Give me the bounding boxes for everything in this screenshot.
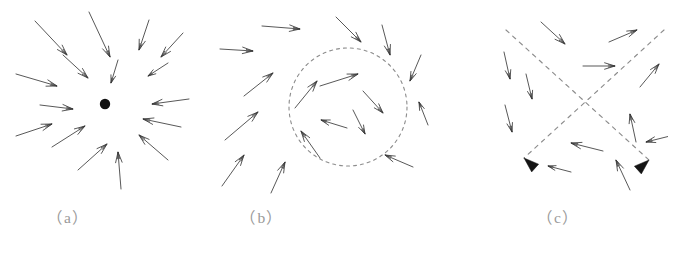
arrow-shaft	[89, 12, 110, 57]
arrow-shaft	[111, 60, 118, 83]
arrow-shaft	[505, 105, 512, 132]
arrow-shaft	[16, 124, 52, 136]
vector-arrow	[35, 21, 67, 55]
arrow-shaft	[320, 74, 358, 86]
vector-arrow	[161, 33, 183, 57]
arrow-shaft	[139, 135, 168, 160]
vector-arrow	[40, 105, 73, 111]
vector-arrow	[320, 74, 358, 86]
arrow-shaft	[385, 155, 413, 167]
vector-arrow	[78, 144, 107, 170]
vector-arrow	[262, 25, 300, 31]
vector-arrow	[419, 102, 428, 125]
arrow-shaft	[244, 73, 273, 96]
arrow-shaft	[139, 20, 149, 50]
vector-arrow	[16, 124, 52, 136]
vector-arrow	[548, 166, 571, 172]
vector-arrow	[152, 99, 189, 106]
vector-arrow	[16, 74, 57, 86]
vector-arrow	[646, 135, 668, 143]
arrow-shaft	[541, 22, 565, 44]
vector-arrow	[363, 91, 383, 113]
panel-b-diagram	[216, 0, 444, 210]
arrow-shaft	[148, 63, 168, 76]
vector-arrow	[63, 55, 88, 78]
arrow-shaft	[363, 91, 383, 113]
vector-arrow	[504, 52, 511, 79]
arrow-shaft	[609, 30, 637, 42]
vector-arrow	[225, 112, 258, 140]
separatrix-arrowhead	[634, 160, 649, 174]
vector-arrow	[385, 155, 413, 167]
vector-arrow	[616, 160, 630, 190]
vector-arrow	[52, 126, 85, 147]
arrow-shaft	[161, 33, 183, 57]
arrow-shaft	[630, 114, 636, 142]
vector-arrow	[410, 55, 421, 81]
arrow-shaft	[52, 126, 85, 147]
vector-arrow	[244, 73, 273, 96]
vector-arrow	[271, 162, 285, 193]
arrow-shaft	[526, 74, 532, 99]
panel-c-caption: （c）	[444, 205, 672, 227]
arrow-shaft	[353, 110, 365, 134]
vector-arrow	[111, 60, 118, 83]
arrow-shaft	[78, 144, 107, 170]
arrow-shaft	[382, 25, 390, 55]
arrow-shaft	[225, 112, 258, 140]
vector-arrow	[321, 120, 347, 128]
vector-arrow	[222, 155, 244, 186]
arrow-shaft	[63, 55, 88, 78]
arrow-shaft	[410, 55, 421, 81]
vector-arrow	[640, 64, 659, 87]
arrow-shaft	[616, 160, 630, 190]
vector-arrow	[336, 17, 361, 42]
vector-arrow	[583, 63, 615, 69]
vector-arrow	[505, 105, 512, 132]
panel-c-diagram	[440, 0, 668, 210]
arrow-shaft	[295, 81, 317, 108]
arrow-shaft	[222, 155, 244, 186]
vector-arrow	[353, 110, 365, 134]
arrow-shaft	[548, 166, 571, 172]
panel-b-caption: （b）	[148, 205, 376, 227]
phase-portrait-figure: （a） （b） （c）	[0, 0, 684, 257]
panel-c-saddle-point: （c）	[440, 0, 668, 257]
arrow-shaft	[321, 120, 347, 128]
vector-arrow	[139, 20, 149, 50]
separatrix-line	[506, 30, 649, 160]
arrow-shaft	[504, 52, 510, 79]
limit-cycle-dashed-circle	[289, 48, 407, 166]
vector-arrow	[139, 135, 168, 160]
arrow-shaft	[143, 119, 181, 127]
panel-a-diagram	[0, 0, 228, 210]
vector-arrow	[571, 142, 603, 151]
arrow-shaft	[271, 162, 285, 193]
vector-arrow	[382, 25, 390, 55]
arrow-shaft	[301, 131, 320, 158]
arrow-shaft	[16, 74, 57, 86]
separatrix-line	[524, 30, 664, 158]
vector-arrow	[89, 12, 110, 57]
fixed-point-dot	[100, 99, 110, 109]
arrow-shaft	[336, 17, 361, 42]
separatrix-arrowhead	[524, 158, 539, 172]
arrow-shaft	[571, 143, 603, 151]
vector-arrow	[148, 63, 168, 76]
arrow-shaft	[640, 64, 659, 87]
vector-arrow	[301, 131, 320, 158]
vector-arrow	[143, 118, 181, 127]
vector-arrow	[629, 114, 636, 142]
vector-arrow	[220, 47, 253, 53]
arrow-shaft	[35, 21, 67, 55]
vector-arrow	[295, 81, 317, 108]
vector-arrow	[609, 30, 637, 42]
panel-b-limit-cycle: （b）	[216, 0, 444, 257]
arrow-shaft	[419, 102, 428, 125]
vector-arrow	[526, 74, 533, 99]
vector-arrow	[541, 22, 565, 44]
vector-arrow	[116, 152, 122, 189]
